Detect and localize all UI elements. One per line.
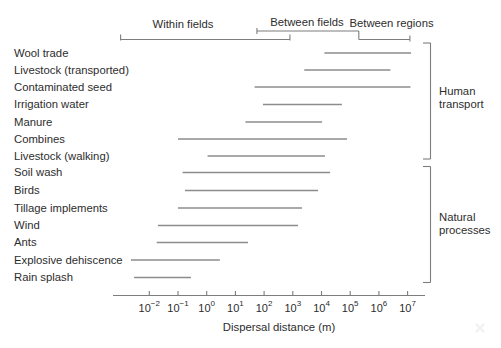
tick-base: 10 xyxy=(256,302,268,314)
scale-bracket-label: Between regions xyxy=(349,17,433,29)
tick-exponent: 3 xyxy=(297,299,301,308)
x-axis-title: Dispersal distance (m) xyxy=(223,321,335,333)
scale-bracket-label: Within fields xyxy=(153,18,214,30)
tick-exponent: 2 xyxy=(268,299,272,308)
row-label: Rain splash xyxy=(14,271,73,284)
scale-bracket-label: Between fields xyxy=(270,16,343,28)
tick-exponent: 7 xyxy=(411,299,415,308)
x-axis-tick-label: 10−2 xyxy=(139,302,160,314)
tick-exponent: 6 xyxy=(383,299,387,308)
tick-exponent: 1 xyxy=(239,299,243,308)
row-label: Soil wash xyxy=(14,166,62,179)
group-label: Human transport xyxy=(439,85,497,111)
tick-exponent: 5 xyxy=(354,299,358,308)
row-label: Manure xyxy=(14,116,52,129)
row-label: Combines xyxy=(14,133,65,146)
row-label: Tillage implements xyxy=(14,202,108,215)
tick-exponent: −1 xyxy=(180,299,189,308)
row-label: Ants xyxy=(14,236,37,249)
page-artifact-mark xyxy=(472,320,488,336)
tick-base: 10 xyxy=(227,302,239,314)
row-label: Livestock (transported) xyxy=(14,64,129,77)
x-axis-tick-label: 106 xyxy=(371,302,388,314)
tick-base: 10 xyxy=(198,302,210,314)
tick-base: 10 xyxy=(139,302,151,314)
tick-base: 10 xyxy=(284,302,296,314)
dispersal-distance-figure: Wool tradeLivestock (transported)Contami… xyxy=(0,0,501,348)
row-label: Contaminated seed xyxy=(14,81,112,94)
x-axis-tick-label: 104 xyxy=(313,302,330,314)
x-axis-tick-label: 100 xyxy=(198,302,215,314)
tick-exponent: −2 xyxy=(151,299,160,308)
row-label: Wind xyxy=(14,219,40,232)
chart-lines-layer xyxy=(0,0,501,348)
row-label: Explosive dehiscence xyxy=(14,254,123,267)
row-label: Wool trade xyxy=(14,47,68,60)
tick-exponent: 4 xyxy=(325,299,329,308)
x-axis-tick-label: 103 xyxy=(284,302,301,314)
tick-base: 10 xyxy=(399,302,411,314)
group-label: Natural processes xyxy=(439,211,497,237)
x-axis-tick-label: 105 xyxy=(342,302,359,314)
x-axis-tick-label: 107 xyxy=(399,302,416,314)
tick-base: 10 xyxy=(313,302,325,314)
row-label: Livestock (walking) xyxy=(14,150,109,163)
tick-base: 10 xyxy=(167,302,179,314)
row-label: Birds xyxy=(14,184,40,197)
x-axis-tick-label: 102 xyxy=(256,302,273,314)
x-axis-tick-label: 10−1 xyxy=(167,302,188,314)
row-label: Irrigation water xyxy=(14,98,89,111)
x-axis-tick-label: 101 xyxy=(227,302,244,314)
tick-base: 10 xyxy=(342,302,354,314)
tick-exponent: 0 xyxy=(211,299,215,308)
tick-base: 10 xyxy=(371,302,383,314)
